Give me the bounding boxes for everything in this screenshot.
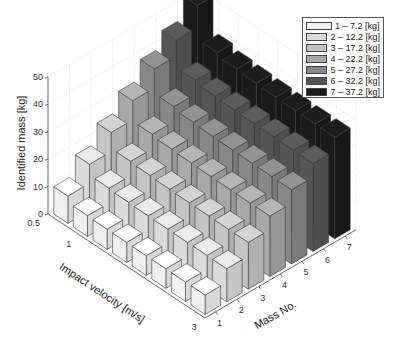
mass-tick-label: 3 <box>260 293 265 303</box>
z-tick-label: 50 <box>33 72 43 82</box>
z-tick-label: 40 <box>33 99 43 109</box>
legend-label: 6 – 32.2 [kg] <box>330 76 380 86</box>
legend-item: 1 – 7.2 [kg] <box>306 20 380 31</box>
mass-tick-label: 4 <box>282 280 287 290</box>
velocity-tick-label: 0.5 <box>27 218 40 228</box>
legend: 1 – 7.2 [kg] 2 – 12.2 [kg] 3 – 17.2 [kg]… <box>302 17 384 98</box>
legend-item: 7 – 37.2 [kg] <box>306 86 380 97</box>
legend-swatch <box>306 33 327 41</box>
z-tick-label: 30 <box>33 127 43 137</box>
legend-item: 4 – 22.2 [kg] <box>306 53 380 64</box>
legend-label: 1 – 7.2 [kg] <box>335 21 380 31</box>
z-tick-label: 10 <box>33 182 43 192</box>
mass-axis-title: Mass No. <box>252 298 298 332</box>
z-tick-label: 20 <box>33 154 43 164</box>
legend-swatch <box>306 88 327 96</box>
velocity-tick-label: 1 <box>66 239 71 249</box>
legend-label: 5 – 27.2 [kg] <box>330 65 380 75</box>
legend-swatch <box>306 55 327 63</box>
legend-swatch <box>306 66 327 74</box>
legend-swatch <box>306 77 327 85</box>
velocity-axis-title: Impact velocity [m/s] <box>57 260 147 325</box>
legend-label: 7 – 37.2 [kg] <box>330 87 380 97</box>
legend-label: 4 – 22.2 [kg] <box>330 54 380 64</box>
velocity-tick-label: 3 <box>192 322 197 332</box>
chart-figure: 010203040500.5131234567Identified mass [… <box>0 0 395 339</box>
z-axis-title: Identified mass [kg] <box>15 96 27 191</box>
legend-label: 2 – 12.2 [kg] <box>330 32 380 42</box>
legend-item: 3 – 17.2 [kg] <box>306 42 380 53</box>
legend-swatch <box>306 22 332 30</box>
legend-item: 5 – 27.2 [kg] <box>306 64 380 75</box>
mass-tick-label: 7 <box>347 242 352 252</box>
legend-label: 3 – 17.2 [kg] <box>330 43 380 53</box>
legend-item: 6 – 32.2 [kg] <box>306 75 380 86</box>
mass-tick-label: 2 <box>239 305 244 315</box>
mass-tick-label: 6 <box>325 255 330 265</box>
legend-swatch <box>306 44 327 52</box>
legend-item: 2 – 12.2 [kg] <box>306 31 380 42</box>
mass-tick-label: 5 <box>303 267 308 277</box>
mass-tick-label: 1 <box>217 318 222 328</box>
